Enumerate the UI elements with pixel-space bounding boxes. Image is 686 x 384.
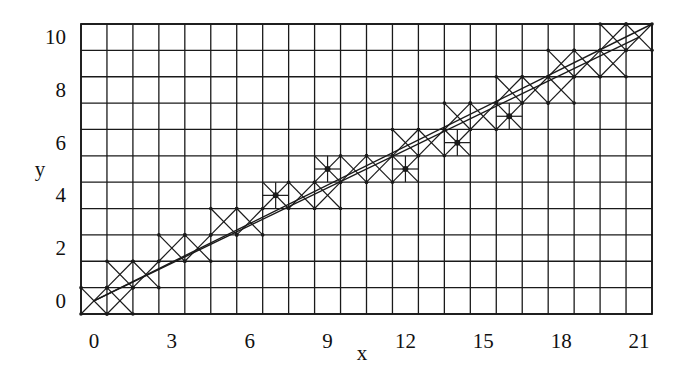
cross-marker [209, 207, 239, 237]
cross-marker [572, 49, 602, 79]
cross-marker [183, 233, 213, 263]
y-tick-label: 6 [56, 131, 67, 155]
y-tick-label: 0 [56, 289, 67, 313]
x-tick-label: 21 [629, 329, 650, 353]
cross-marker [105, 286, 135, 316]
asterisk-marker [444, 129, 470, 155]
cross-marker [105, 259, 135, 289]
x-tick-label: 18 [551, 329, 572, 353]
x-axis-label: x [357, 341, 368, 365]
y-tick-label: 2 [56, 236, 67, 260]
cross-marker [339, 154, 369, 184]
x-axis-ticks: 036912151821 [89, 329, 650, 353]
y-axis-label: y [35, 157, 46, 181]
y-axis-ticks: 0246810 [45, 25, 67, 313]
cross-marker [520, 75, 550, 105]
x-tick-label: 6 [244, 329, 255, 353]
x-tick-label: 15 [473, 329, 494, 353]
cross-marker [391, 128, 421, 158]
x-tick-label: 3 [167, 329, 178, 353]
y-tick-label: 4 [56, 183, 67, 207]
cross-marker [624, 22, 654, 52]
x-tick-label: 9 [322, 329, 333, 353]
asterisk-marker [392, 156, 418, 182]
asterisk-marker [496, 103, 522, 129]
y-tick-label: 10 [45, 25, 66, 49]
cross-marker [469, 101, 499, 131]
cross-marker [79, 286, 109, 316]
raster-line-chart: 036912151821 0246810 x y [0, 0, 686, 384]
trend-line [94, 24, 652, 301]
cross-marker [443, 101, 473, 131]
x-tick-label: 0 [89, 329, 100, 353]
asterisk-marker [263, 182, 289, 208]
cross-marker [235, 207, 265, 237]
asterisk-marker [315, 156, 341, 182]
cross-marker [598, 49, 628, 79]
y-tick-label: 8 [56, 78, 67, 102]
x-tick-label: 12 [395, 329, 416, 353]
trend-lines [94, 24, 652, 301]
